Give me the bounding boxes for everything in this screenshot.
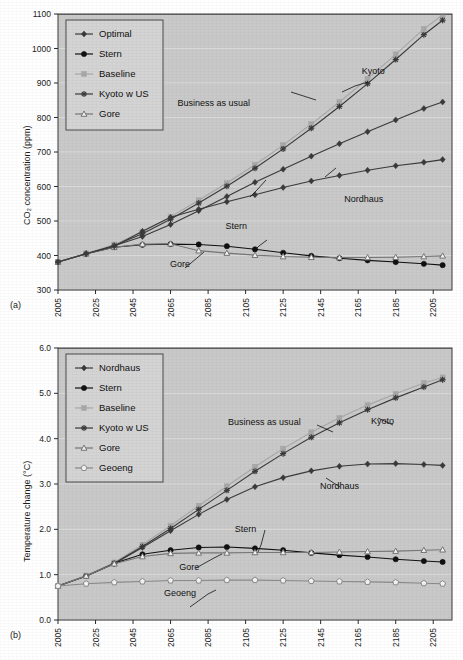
x-tick-label: 2185 [391,298,401,317]
legend-item-label: Stern [99,48,122,59]
data-point-marker [421,558,426,563]
panel-b-plot: 0.01.02.03.04.05.06.02005202520452065208… [0,330,463,660]
x-tick-label: 2045 [128,298,138,317]
x-axis: 2005202520452065208521052125214521652185… [53,620,438,647]
x-tick-label: 2005 [53,628,63,647]
x-tick-label: 2185 [391,628,401,647]
annotation-label: Business as usual [228,417,301,427]
x-tick-label: 2065 [166,628,176,647]
legend-item-label: Stern [99,382,122,393]
data-point-marker [365,76,370,81]
legend-item-label: Gore [99,442,120,453]
y-tick-label: 4.0 [39,434,51,444]
y-axis: 0.01.02.03.04.05.06.0 [39,343,58,625]
y-tick-label: 900 [37,78,51,88]
x-axis: 2005202520452065208521052125214521652185… [53,290,438,317]
data-point-marker [440,263,445,268]
top-clip-mask [58,0,452,14]
annotation-label: Kyoto [362,66,385,76]
data-point-marker [365,554,370,559]
data-point-marker [81,385,86,390]
panel-a-plot: 3004005006007008009001000110020052025204… [0,0,463,330]
legend-item-label: Optimal [99,28,132,39]
annotation-label: Stern [225,221,247,231]
data-point-marker [309,430,314,435]
data-point-marker [393,52,398,57]
y-tick-label: 1000 [32,44,51,54]
y-axis: 30040050060070080090010001100 [32,9,58,295]
annotation-label: Business as usual [177,98,250,108]
y-tick-label: 3.0 [39,479,51,489]
y-tick-label: 400 [37,251,51,261]
top-clip-mask [58,330,452,348]
legend-item-label: Gore [99,108,120,119]
annotation-label: Gore [179,562,199,572]
x-tick-label: 2005 [53,298,63,317]
x-tick-label: 2045 [128,628,138,647]
panel-a-label: (a) [10,300,21,310]
data-point-marker [252,247,257,252]
x-tick-label: 2125 [278,298,288,317]
data-point-marker [337,415,342,420]
annotation-label: Gore [170,259,190,269]
y-tick-label: 600 [37,182,51,192]
y-tick-label: 700 [37,147,51,157]
data-point-marker [224,544,229,549]
panel-b-y-axis-label: Temperature change (°C) [22,461,32,562]
legend-item-label: Kyoto w US [99,422,149,433]
data-point-marker [393,557,398,562]
data-point-marker [281,446,286,451]
x-tick-label: 2105 [241,628,251,647]
x-tick-label: 2085 [203,628,213,647]
panel-b-temperature-change: (b) Temperature change (°C) 0.01.02.03.0… [0,330,463,660]
y-tick-label: 2.0 [39,524,51,534]
data-point-marker [393,259,398,264]
y-tick-label: 500 [37,216,51,226]
x-tick-label: 2145 [316,628,326,647]
x-tick-label: 2165 [353,298,363,317]
annotation-label: Nordhaus [344,194,384,204]
legend-item-label: Kyoto w US [99,88,149,99]
annotation-label: Stern [235,524,257,534]
y-tick-label: 6.0 [39,343,51,353]
data-point-marker [224,244,229,249]
x-tick-label: 2145 [316,298,326,317]
y-tick-label: 800 [37,113,51,123]
data-point-marker [440,559,445,564]
legend: OptimalSternBaselineKyoto w USGore [66,20,163,130]
y-tick-label: 0.0 [39,615,51,625]
x-tick-label: 2205 [428,298,438,317]
x-tick-label: 2025 [91,628,101,647]
legend-item-label: Geoeng [99,462,133,473]
x-tick-label: 2105 [241,298,251,317]
legend-item-label: Baseline [99,68,135,79]
data-point-marker [82,406,87,411]
legend-item-label: Baseline [99,402,135,413]
panel-a-co2-concentration: (a) CO₂ concentration (ppm) 300400500600… [0,0,463,330]
x-tick-label: 2205 [428,628,438,647]
data-point-marker [421,26,426,31]
y-tick-label: 5.0 [39,388,51,398]
data-point-marker [81,51,86,56]
annotation-label: Kyoto [371,416,394,426]
y-tick-label: 1100 [33,9,52,19]
data-point-marker [421,261,426,266]
panel-b-label: (b) [10,630,21,640]
x-tick-label: 2165 [353,628,363,647]
x-tick-label: 2085 [203,298,213,317]
data-point-marker [196,242,201,247]
x-tick-label: 2065 [166,298,176,317]
annotation-label: Geoeng [164,588,196,598]
figure-two-panel-climate-projections: (a) CO₂ concentration (ppm) 300400500600… [0,0,463,660]
legend-item-label: Nordhaus [99,362,140,373]
data-point-marker [82,72,87,77]
y-tick-label: 300 [37,285,51,295]
x-tick-label: 2125 [278,628,288,647]
y-tick-label: 1.0 [39,570,51,580]
panel-a-y-axis-label: CO₂ concentration (ppm) [22,125,32,225]
legend: NordhausSternBaselineKyoto w USGoreGeoen… [66,354,163,482]
x-tick-label: 2025 [91,298,101,317]
